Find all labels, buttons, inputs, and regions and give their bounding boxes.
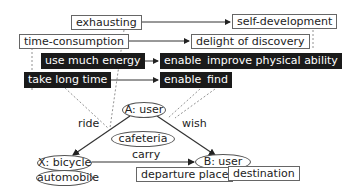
node-departure-place: departure place [136,167,233,182]
node-take-long-time: take long time [24,72,111,88]
node-time-consumption: time-consumption [19,34,129,49]
edge-label-ride: ride [78,117,99,130]
node-self-development: self-development [232,14,337,29]
node-exhausting: exhausting [71,15,142,30]
node-automobile: automobile [36,170,93,186]
node-enable-1: enable [160,53,205,69]
node-a-user: A: user [122,102,166,118]
edge-label-wish: wish [182,117,207,130]
node-improve-physical-ability: improve physical ability [203,53,342,69]
node-destination: destination [228,166,300,181]
node-use-much-energy: use much energy [41,53,145,69]
edge-label-carry: carry [132,148,160,161]
node-x-bicycle: X: bicycle [37,155,92,171]
node-enable-2: enable [160,72,205,88]
node-find: find [203,72,232,88]
node-delight-of-discovery: delight of discovery [191,34,310,49]
node-cafeteria: cafeteria [111,131,175,147]
